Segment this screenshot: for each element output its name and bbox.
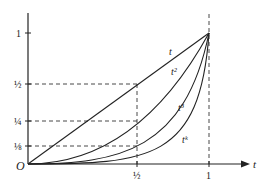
curve-label-t: t <box>169 46 172 57</box>
y-tick-eighth: ⅛ <box>14 141 22 152</box>
origin-label: O <box>16 159 25 173</box>
x-tick-half: ½ <box>133 170 141 181</box>
y-tick-one: 1 <box>16 28 21 39</box>
curve-label-t3: t³ <box>178 102 185 113</box>
curve-label-tk: tᵏ <box>182 134 189 145</box>
power-curves-diagram: O t ½ 1 1 ½ ¼ ⅛ t t² t³ tᵏ <box>0 0 268 187</box>
y-tick-quarter: ¼ <box>14 116 22 127</box>
y-tick-half: ½ <box>14 79 22 90</box>
x-tick-one: 1 <box>206 170 211 181</box>
x-axis-label: t <box>253 158 257 170</box>
x-axis-arrow-icon <box>241 161 250 168</box>
curve-label-t2: t² <box>171 66 178 77</box>
